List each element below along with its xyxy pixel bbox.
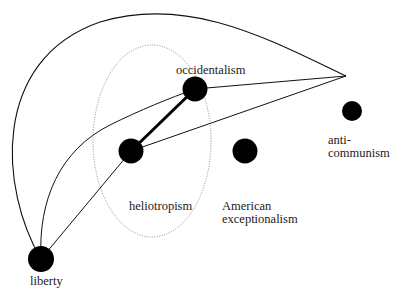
label-occidentalism: occidentalism	[176, 64, 245, 77]
label-liberty: liberty	[30, 275, 63, 288]
label-heliotropism: heliotropism	[129, 200, 192, 213]
edge-liberty-heliotropism	[41, 151, 131, 259]
label-anti-line2: communism	[328, 147, 390, 160]
edge-occidentalism-apex	[195, 76, 346, 89]
node-heliotropism	[119, 139, 144, 164]
edge-heliotropism-apex	[131, 76, 346, 151]
node-occidentalism	[183, 77, 208, 102]
node-liberty	[28, 246, 54, 272]
label-american-line2: exceptionalism	[222, 213, 298, 226]
edge-liberty-occidentalism	[41, 89, 195, 259]
node-american-exceptionalism	[233, 139, 258, 164]
node-anti-communism	[342, 101, 362, 121]
edge-occidentalism-heliotropism-thick	[131, 89, 195, 151]
